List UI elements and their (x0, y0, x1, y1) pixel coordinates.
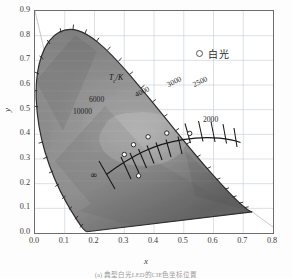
x-tick-1: 0.1 (49, 237, 79, 245)
chromaticity-plot-svg (35, 11, 273, 233)
plot-area: Tc/K 10000 6000 4000 3000 2500 2000 ∞ (34, 10, 274, 234)
color-temperature-axis-label: Tc/K (109, 73, 123, 84)
y-tick-6: 0.6 (0, 80, 30, 88)
open-circle-marker-icon (196, 50, 203, 57)
x-axis-label: x (0, 256, 292, 266)
x-tick-3: 0.3 (108, 237, 138, 245)
x-tick-7: 0.7 (227, 237, 257, 245)
temp-label-2000: 2000 (203, 116, 218, 124)
y-tick-0: 0.0 (0, 228, 30, 236)
x-tick-8: 0.8 (257, 237, 287, 245)
x-tick-0: 0.0 (19, 237, 49, 245)
y-tick-4: 0.4 (0, 129, 30, 137)
y-tick-8: 0.8 (0, 31, 30, 39)
y-tick-2: 0.2 (0, 179, 30, 187)
x-tick-2: 0.2 (79, 237, 109, 245)
y-tick-7: 0.7 (0, 55, 30, 63)
y-axis-label: y (2, 108, 12, 112)
x-tick-6: 0.6 (198, 237, 228, 245)
legend-label-white-light: 白光 (208, 46, 229, 61)
y-tick-3: 0.3 (0, 154, 30, 162)
legend: 白光 (196, 46, 229, 61)
figure-caption: (a) 典型白光LED的CIE色坐标位置 (0, 269, 292, 279)
x-tick-4: 0.4 (138, 237, 168, 245)
y-tick-9: 0.9 (0, 6, 30, 14)
y-tick-1: 0.1 (0, 203, 30, 211)
infinity-label: ∞ (90, 170, 98, 180)
temp-label-10000: 10000 (73, 108, 92, 116)
temp-label-6000: 6000 (89, 96, 104, 104)
x-tick-5: 0.5 (168, 237, 198, 245)
